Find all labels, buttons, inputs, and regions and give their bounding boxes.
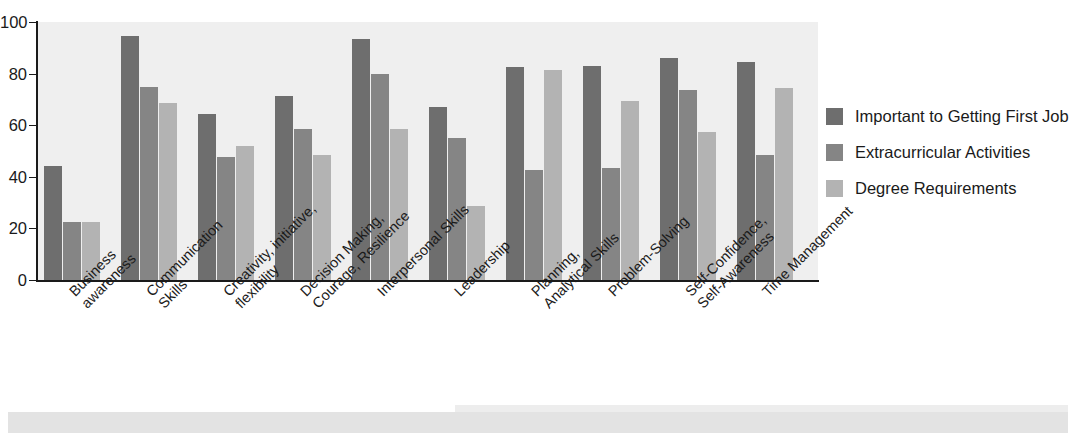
y-tick-40: [29, 177, 37, 178]
legend-swatch-icon: [826, 108, 843, 125]
bar[interactable]: [159, 103, 177, 280]
page-edge-artifact: [8, 412, 1068, 433]
y-tick-label-20: 20: [0, 220, 27, 237]
y-tick-0: [29, 280, 37, 281]
legend-item[interactable]: Extracurricular Activities: [826, 134, 1066, 170]
legend-label: Degree Requirements: [855, 180, 1016, 197]
legend-swatch-icon: [826, 180, 843, 197]
legend-item[interactable]: Important to Getting First Job: [826, 98, 1066, 134]
bar[interactable]: [44, 166, 62, 280]
bar[interactable]: [140, 87, 158, 281]
y-tick-label-60: 60: [0, 117, 27, 134]
bar-group: [44, 22, 102, 280]
y-tick-20: [29, 228, 37, 229]
bar[interactable]: [544, 70, 562, 280]
legend-label: Important to Getting First Job: [855, 108, 1069, 125]
bar[interactable]: [775, 88, 793, 280]
legend-label: Extracurricular Activities: [855, 144, 1030, 161]
y-tick-label-40: 40: [0, 169, 27, 186]
bar[interactable]: [121, 36, 139, 280]
y-tick-100: [29, 22, 37, 23]
bar[interactable]: [63, 222, 81, 280]
bar[interactable]: [621, 101, 639, 280]
y-tick-80: [29, 74, 37, 75]
x-axis-category-labels: BusinessawarenessCommunicationSkillsCrea…: [37, 282, 837, 402]
y-tick-60: [29, 125, 37, 126]
bar[interactable]: [679, 90, 697, 280]
chart-legend: Important to Getting First JobExtracurri…: [826, 98, 1066, 206]
bar[interactable]: [525, 170, 543, 280]
y-tick-label-80: 80: [0, 66, 27, 83]
bar-group: [121, 22, 179, 280]
legend-item[interactable]: Degree Requirements: [826, 170, 1066, 206]
bar-group: [506, 22, 564, 280]
bar-chart-figure: 100806040200 BusinessawarenessCommunicat…: [0, 0, 1075, 433]
y-tick-label-0: 0: [0, 272, 27, 289]
legend-swatch-icon: [826, 144, 843, 161]
bar[interactable]: [217, 157, 235, 280]
y-tick-label-100: 100: [0, 14, 27, 31]
